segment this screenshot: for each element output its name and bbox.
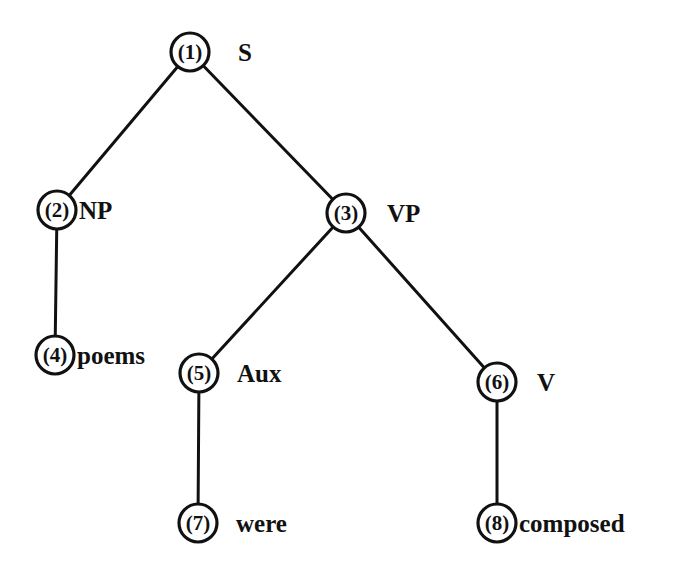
node-label: poems — [77, 342, 145, 369]
node-label: V — [537, 369, 555, 396]
tree-edge-3-5 — [199, 213, 346, 373]
tree-nodes: (1)S(2)NP(3)VP(4)poems(5)Aux(6)V(7)were(… — [36, 33, 625, 542]
tree-node-2: (2)NP — [38, 191, 112, 229]
parse-tree-diagram: (1)S(2)NP(3)VP(4)poems(5)Aux(6)V(7)were(… — [0, 0, 675, 576]
node-number: (7) — [186, 511, 211, 535]
tree-edges — [55, 52, 497, 523]
node-label: Aux — [237, 360, 282, 387]
node-number: (6) — [485, 370, 510, 394]
node-number: (4) — [43, 343, 68, 367]
tree-node-3: (3)VP — [327, 194, 420, 232]
node-number: (1) — [178, 40, 203, 64]
tree-node-1: (1)S — [171, 33, 252, 71]
tree-edge-5-7 — [198, 373, 199, 523]
tree-node-7: (7)were — [179, 504, 287, 542]
node-label: S — [238, 39, 252, 66]
tree-node-5: (5)Aux — [180, 354, 282, 392]
node-number: (3) — [334, 201, 359, 225]
tree-edge-3-6 — [346, 213, 497, 382]
tree-edge-2-4 — [55, 210, 57, 355]
node-number: (8) — [485, 511, 510, 535]
node-label: were — [236, 510, 287, 537]
tree-node-8: (8)composed — [478, 504, 625, 542]
tree-node-4: (4)poems — [36, 336, 145, 374]
node-number: (5) — [187, 361, 212, 385]
tree-node-6: (6)V — [478, 363, 555, 401]
node-label: NP — [79, 197, 112, 224]
node-label: composed — [519, 510, 625, 537]
tree-edge-1-2 — [57, 52, 190, 210]
node-label: VP — [387, 200, 420, 227]
tree-edge-1-3 — [190, 52, 346, 213]
node-number: (2) — [45, 198, 70, 222]
